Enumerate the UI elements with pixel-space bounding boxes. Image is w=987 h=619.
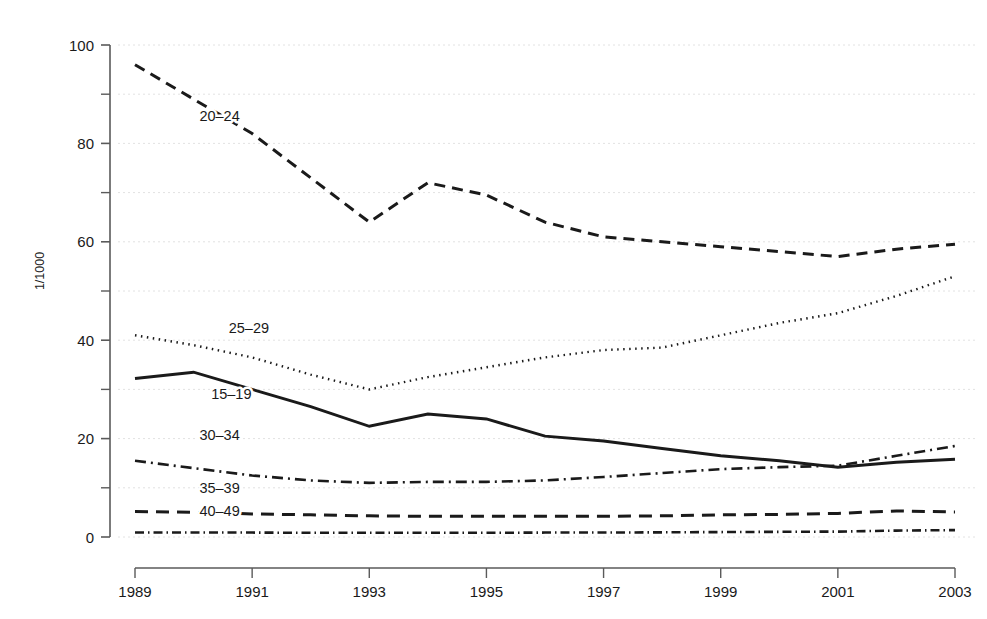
y-axis-tick-label: 40 [77,332,94,349]
series-line-35-39 [135,511,955,516]
y-axis-title-text: 1/1000 [33,252,47,290]
y-axis-tick-label: 100 [69,37,94,54]
y-axis: 020406080100 [69,37,110,546]
x-axis-tick-label: 1989 [118,583,151,600]
series-line-15-19 [135,372,955,467]
y-axis-tick-label: 20 [77,430,94,447]
series-label-15-19: 15–19 [211,386,251,402]
y-axis-tick-label: 60 [77,233,94,250]
x-axis-tick-label: 1999 [704,583,737,600]
series-line-20-24 [135,65,955,257]
y-axis-title: 1/1000 [33,252,47,290]
line-chart-svg: 020406080100 198919911993199519971999200… [0,0,987,619]
x-axis-tick-label: 2003 [938,583,971,600]
x-axis-tick-label: 1997 [587,583,620,600]
series-label-30-34: 30–34 [199,427,239,443]
series-label-25-29: 25–29 [229,320,269,336]
x-axis-tick-label: 2001 [821,583,854,600]
x-axis: 19891991199319951997199920012003 [118,568,971,600]
series-label-40-49: 40–49 [199,503,239,519]
series-label-35-39: 35–39 [199,480,239,496]
series-lines [135,65,955,533]
x-axis-tick-label: 1991 [235,583,268,600]
series-line-40-49 [135,530,955,533]
y-axis-tick-label: 0 [86,529,94,546]
series-label-20-24: 20–24 [199,108,239,124]
x-axis-tick-label: 1993 [353,583,386,600]
chart-container: 020406080100 198919911993199519971999200… [0,0,987,619]
series-line-30-34 [135,446,955,483]
y-axis-tick-label: 80 [77,135,94,152]
x-axis-tick-label: 1995 [470,583,503,600]
series-inline-labels: 20–2420–2425–2925–2915–1915–1930–3430–34… [199,108,269,519]
